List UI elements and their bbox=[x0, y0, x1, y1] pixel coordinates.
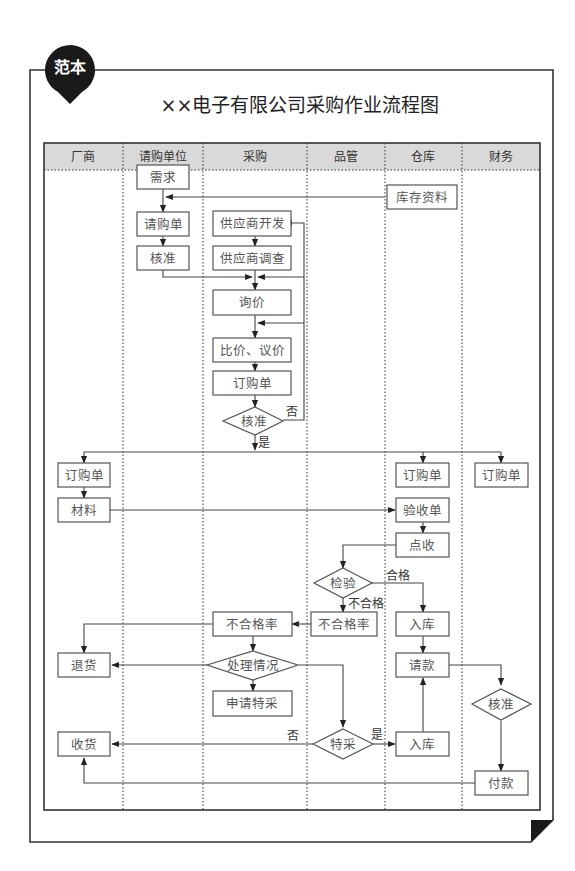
folded-corner-icon bbox=[531, 820, 553, 842]
svg-text:检验: 检验 bbox=[330, 576, 356, 591]
node-receive-goods: 收货 bbox=[58, 732, 110, 756]
node-qc-reject-rate: 不合格率 bbox=[311, 612, 377, 636]
edge-label-fail: 不合格 bbox=[348, 596, 384, 611]
svg-text:订购单: 订购单 bbox=[482, 468, 521, 483]
node-purchase-reject-rate: 不合格率 bbox=[213, 612, 292, 636]
svg-text:核准: 核准 bbox=[241, 414, 267, 429]
svg-text:材料: 材料 bbox=[71, 503, 97, 518]
node-apply-special: 申请特采 bbox=[213, 691, 292, 716]
edge-label-special-no: 否 bbox=[287, 729, 299, 743]
svg-text:订购单: 订购单 bbox=[233, 376, 272, 391]
flowchart-canvas: 范本 ××电子有限公司采购作业流程图 厂商 请购单位 采购 品管 仓库 财务 bbox=[0, 0, 575, 871]
svg-text:入库: 入库 bbox=[409, 617, 435, 632]
node-purchase-order: 订购单 bbox=[213, 371, 291, 395]
node-return-goods: 退货 bbox=[58, 653, 110, 677]
svg-text:供应商开发: 供应商开发 bbox=[220, 216, 285, 231]
svg-text:订购单: 订购单 bbox=[65, 468, 104, 483]
node-warehouse-po: 订购单 bbox=[396, 463, 449, 487]
svg-text:请购单: 请购单 bbox=[144, 217, 183, 232]
node-count-receive: 点收 bbox=[396, 533, 449, 557]
lane-header-finance: 财务 bbox=[489, 149, 513, 164]
node-payment: 付款 bbox=[475, 771, 528, 795]
svg-text:订购单: 订购单 bbox=[403, 468, 442, 483]
edge-label-special-yes: 是 bbox=[371, 728, 383, 742]
svg-text:收货: 收货 bbox=[71, 737, 97, 752]
svg-text:询价: 询价 bbox=[239, 295, 265, 310]
lane-header-purchasing: 采购 bbox=[243, 149, 267, 164]
svg-text:需求: 需求 bbox=[150, 170, 176, 185]
lane-header-requester: 请购单位 bbox=[139, 149, 187, 164]
svg-text:核准: 核准 bbox=[150, 251, 176, 266]
page-title: ××电子有限公司采购作业流程图 bbox=[161, 94, 440, 116]
node-supplier-survey: 供应商调查 bbox=[213, 246, 291, 270]
lane-header-warehouse: 仓库 bbox=[411, 149, 435, 164]
node-receiving-slip: 验收单 bbox=[396, 498, 449, 522]
svg-text:比价、议价: 比价、议价 bbox=[220, 343, 285, 358]
node-compare-negotiate: 比价、议价 bbox=[213, 338, 291, 362]
svg-text:退货: 退货 bbox=[71, 658, 97, 673]
node-vendor-po: 订购单 bbox=[58, 463, 110, 487]
svg-text:库存资料: 库存资料 bbox=[396, 190, 448, 205]
edge-label-po-yes: 是 bbox=[258, 436, 270, 450]
node-material: 材料 bbox=[58, 498, 110, 522]
svg-text:核准: 核准 bbox=[488, 697, 514, 712]
node-finance-po: 订购单 bbox=[475, 463, 528, 487]
svg-text:请款: 请款 bbox=[409, 658, 435, 673]
lane-header-qc: 品管 bbox=[334, 149, 358, 164]
svg-text:点收: 点收 bbox=[409, 538, 435, 553]
edge-label-pass: 合格 bbox=[386, 568, 410, 583]
edge-label-po-no: 否 bbox=[286, 405, 298, 419]
svg-text:验收单: 验收单 bbox=[403, 503, 442, 518]
svg-text:不合格率: 不合格率 bbox=[318, 617, 370, 632]
outer-frame bbox=[30, 70, 553, 842]
node-request-payment: 请款 bbox=[396, 653, 449, 677]
node-store-2: 入库 bbox=[396, 732, 449, 756]
node-store-1: 入库 bbox=[396, 612, 449, 636]
node-inquiry: 询价 bbox=[213, 290, 291, 315]
node-inventory-data: 库存资料 bbox=[387, 185, 457, 209]
svg-text:付款: 付款 bbox=[488, 776, 514, 791]
node-requisition: 请购单 bbox=[137, 212, 189, 236]
svg-text:处理情况: 处理情况 bbox=[227, 658, 279, 673]
badge-label: 范本 bbox=[54, 58, 86, 77]
node-demand: 需求 bbox=[137, 165, 189, 189]
svg-text:特采: 特采 bbox=[330, 737, 356, 752]
svg-text:入库: 入库 bbox=[409, 737, 435, 752]
node-supplier-development: 供应商开发 bbox=[213, 211, 291, 236]
node-approve-requisition: 核准 bbox=[137, 246, 189, 270]
lane-header-vendor: 厂商 bbox=[71, 149, 95, 164]
svg-text:申请特采: 申请特采 bbox=[226, 696, 278, 711]
svg-text:不合格率: 不合格率 bbox=[226, 617, 278, 632]
svg-text:供应商调查: 供应商调查 bbox=[220, 251, 285, 266]
